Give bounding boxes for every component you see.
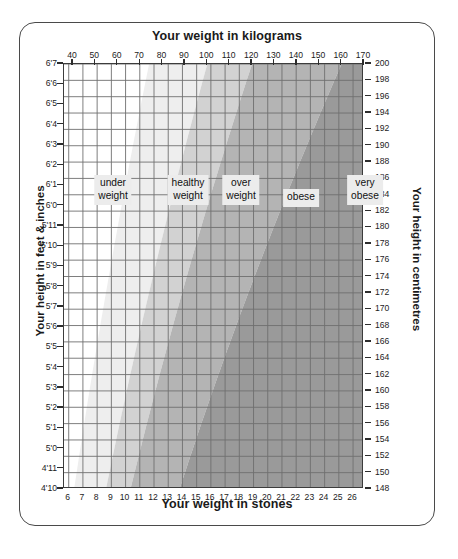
cm-tick-label: 152 xyxy=(375,450,389,460)
stone-tick-label: 6 xyxy=(65,492,70,502)
feet-inches-tick-label: 6'2 xyxy=(27,159,57,169)
cm-tick-mark xyxy=(365,455,371,456)
cm-tick-mark xyxy=(365,62,371,63)
cm-tick-mark xyxy=(365,226,371,227)
band-label-very-obese: very obese xyxy=(347,175,383,205)
cm-tick-mark xyxy=(365,291,371,292)
cm-tick-mark xyxy=(365,422,371,423)
cm-tick-label: 162 xyxy=(375,369,389,379)
cm-tick-label: 194 xyxy=(375,107,389,117)
feet-inches-tick-label: 6'3 xyxy=(27,139,57,149)
cm-tick-mark xyxy=(365,79,371,80)
feet-inches-tick-label: 4'10 xyxy=(27,483,57,493)
feet-inches-tick-label: 5'9 xyxy=(27,260,57,270)
cm-tick-label: 200 xyxy=(375,58,389,68)
cm-tick-label: 148 xyxy=(375,483,389,493)
cm-tick-label: 168 xyxy=(375,320,389,330)
feet-inches-tick-label: 5'6 xyxy=(27,321,57,331)
feet-inches-tick-label: 5'1 xyxy=(27,422,57,432)
cm-tick-mark xyxy=(365,357,371,358)
stone-tick-label: 21 xyxy=(276,492,286,502)
stone-tick-label: 9 xyxy=(108,492,113,502)
cm-tick-label: 182 xyxy=(375,205,389,215)
stone-tick-label: 26 xyxy=(347,492,357,502)
cm-tick-mark xyxy=(365,373,371,374)
cm-tick-label: 154 xyxy=(375,434,389,444)
band-label-group: under weighthealthy weightover weightobe… xyxy=(63,63,363,488)
feet-inches-tick-label: 6'0 xyxy=(27,200,57,210)
cm-tick-label: 196 xyxy=(375,91,389,101)
cm-tick-mark xyxy=(365,438,371,439)
cm-tick-mark xyxy=(365,324,371,325)
plot-wrapper: 405060708090100110120130140150160170 678… xyxy=(63,63,363,488)
stone-tick-label: 23 xyxy=(305,492,315,502)
cm-tick-mark xyxy=(365,406,371,407)
stone-tick-label: 10 xyxy=(120,492,130,502)
cm-tick-label: 164 xyxy=(375,352,389,362)
stone-tick-label: 19 xyxy=(248,492,258,502)
cm-tick-mark xyxy=(365,210,371,211)
cm-tick-mark xyxy=(365,471,371,472)
cm-tick-label: 192 xyxy=(375,123,389,133)
feet-inches-tick-label: 5'2 xyxy=(27,402,57,412)
cm-tick-label: 150 xyxy=(375,467,389,477)
feet-inches-tick-label: 5'3 xyxy=(27,382,57,392)
band-label-over-weight: over weight xyxy=(222,175,259,205)
cm-tick-label: 170 xyxy=(375,303,389,313)
stone-tick-label: 15 xyxy=(191,492,201,502)
cm-tick-label: 178 xyxy=(375,238,389,248)
cm-tick-label: 180 xyxy=(375,221,389,231)
feet-inches-tick-label: 6'7 xyxy=(27,58,57,68)
cm-tick-mark xyxy=(365,275,371,276)
cm-tick-mark xyxy=(365,259,371,260)
cm-tick-label: 188 xyxy=(375,156,389,166)
cm-tick-mark xyxy=(365,389,371,390)
cm-tick-mark xyxy=(365,340,371,341)
cm-tick-label: 158 xyxy=(375,401,389,411)
top-axis-title: Your weight in kilograms xyxy=(20,29,434,43)
cm-tick-mark xyxy=(365,111,371,112)
stone-tick-label: 25 xyxy=(333,492,343,502)
feet-inches-tick-label: 4'11 xyxy=(27,463,57,473)
stone-tick-label: 7 xyxy=(80,492,85,502)
stone-tick-label: 17 xyxy=(219,492,229,502)
stone-tick-label: 22 xyxy=(290,492,300,502)
feet-inches-tick-label: 6'6 xyxy=(27,78,57,88)
cm-tick-label: 172 xyxy=(375,287,389,297)
cm-tick-mark xyxy=(365,128,371,129)
cm-tick-mark xyxy=(365,487,371,488)
cm-tick-label: 176 xyxy=(375,254,389,264)
stone-tick-label: 24 xyxy=(319,492,329,502)
cm-tick-label: 160 xyxy=(375,385,389,395)
right-axis-title: Your height in centimetres xyxy=(411,159,423,359)
stone-tick-label: 8 xyxy=(94,492,99,502)
band-label-obese: obese xyxy=(283,189,319,207)
cm-tick-label: 174 xyxy=(375,271,389,281)
cm-tick-mark xyxy=(365,242,371,243)
cm-tick-mark xyxy=(365,160,371,161)
feet-inches-tick-label: 5'0 xyxy=(27,443,57,453)
band-label-healthy-weight: healthy weight xyxy=(168,175,209,205)
stone-tick-label: 13 xyxy=(162,492,172,502)
cm-tick-label: 156 xyxy=(375,418,389,428)
cm-tick-mark xyxy=(365,95,371,96)
feet-inches-tick-label: 5'10 xyxy=(27,240,57,250)
cm-tick-label: 190 xyxy=(375,140,389,150)
feet-inches-tick-label: 5'5 xyxy=(27,341,57,351)
feet-inches-tick-label: 6'4 xyxy=(27,119,57,129)
bmi-chart-card: Your weight in kilograms Your weight in … xyxy=(19,22,435,526)
stone-tick-label: 20 xyxy=(262,492,272,502)
stone-tick-label: 14 xyxy=(177,492,187,502)
feet-inches-tick-label: 5'11 xyxy=(27,220,57,230)
feet-inches-tick-label: 6'1 xyxy=(27,179,57,189)
cm-tick-label: 166 xyxy=(375,336,389,346)
feet-inches-tick-label: 6'5 xyxy=(27,98,57,108)
stone-tick-label: 12 xyxy=(148,492,158,502)
feet-inches-tick-label: 5'4 xyxy=(27,362,57,372)
cm-tick-mark xyxy=(365,308,371,309)
feet-inches-tick-label: 5'7 xyxy=(27,301,57,311)
stone-tick-label: 18 xyxy=(234,492,244,502)
stone-tick-label: 11 xyxy=(134,492,143,502)
stone-tick-label: 16 xyxy=(205,492,215,502)
cm-tick-mark xyxy=(365,144,371,145)
